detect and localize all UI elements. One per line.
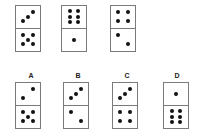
domino-half-bottom <box>64 106 88 129</box>
pip-dot <box>76 20 80 24</box>
domino-half-top <box>62 6 86 29</box>
pip-dot <box>76 9 80 13</box>
pip-dot <box>79 119 83 123</box>
pip-dot <box>74 92 78 96</box>
pip-dot <box>126 10 130 14</box>
pip-dot <box>31 119 35 123</box>
pip-dot <box>76 15 80 19</box>
pip-dot <box>178 120 182 124</box>
pip-dot <box>31 87 35 91</box>
pip-dot <box>31 42 35 46</box>
pip-dot <box>118 119 122 123</box>
pip-dot <box>72 38 76 42</box>
pip-dot <box>69 96 73 100</box>
domino-half-bottom <box>62 29 86 52</box>
pip-dot <box>116 19 120 23</box>
domino-half-bottom <box>113 106 137 129</box>
pip-dot <box>170 115 174 119</box>
pip-dot <box>126 42 130 46</box>
pip-dot <box>170 120 174 124</box>
pip-dot <box>116 10 120 14</box>
pip-dot <box>69 110 73 114</box>
pip-dot <box>68 9 72 13</box>
option-domino-d[interactable] <box>163 82 189 129</box>
pip-dot <box>128 119 132 123</box>
pip-dot <box>68 15 72 19</box>
pip-dot <box>123 92 127 96</box>
domino-half-bottom <box>111 29 135 52</box>
pip-dot <box>116 33 120 37</box>
domino-half-top <box>113 83 137 106</box>
pip-dot <box>170 109 174 113</box>
pip-dot <box>21 19 25 23</box>
domino-half-top <box>164 83 188 106</box>
pip-dot <box>118 110 122 114</box>
sequence-domino-1 <box>15 5 41 52</box>
pip-dot <box>79 87 83 91</box>
domino-half-top <box>16 83 40 106</box>
pip-dot <box>21 42 25 46</box>
option-label-d: D <box>174 72 179 79</box>
pip-dot <box>31 10 35 14</box>
pip-dot <box>26 115 30 119</box>
pip-dot <box>128 87 132 91</box>
pip-dot <box>21 119 25 123</box>
pip-dot <box>26 15 30 19</box>
pip-dot <box>26 38 30 42</box>
pip-dot <box>174 92 178 96</box>
pip-dot <box>118 96 122 100</box>
option-domino-b[interactable] <box>63 82 89 129</box>
pip-dot <box>31 33 35 37</box>
domino-half-bottom <box>16 29 40 52</box>
option-label-a: A <box>28 72 33 79</box>
pip-dot <box>68 20 72 24</box>
pip-dot <box>128 110 132 114</box>
sequence-domino-2 <box>61 5 87 52</box>
pip-dot <box>126 19 130 23</box>
pip-dot <box>21 110 25 114</box>
option-domino-c[interactable] <box>112 82 138 129</box>
pip-dot <box>31 110 35 114</box>
pip-dot <box>178 109 182 113</box>
domino-half-bottom <box>164 106 188 129</box>
pip-dot <box>21 33 25 37</box>
pip-dot <box>21 96 25 100</box>
domino-half-top <box>64 83 88 106</box>
domino-half-bottom <box>16 106 40 129</box>
option-domino-a[interactable] <box>15 82 41 129</box>
sequence-domino-3 <box>110 5 136 52</box>
domino-half-top <box>16 6 40 29</box>
option-label-c: C <box>124 72 129 79</box>
option-label-b: B <box>75 72 80 79</box>
domino-half-top <box>111 6 135 29</box>
pip-dot <box>178 115 182 119</box>
